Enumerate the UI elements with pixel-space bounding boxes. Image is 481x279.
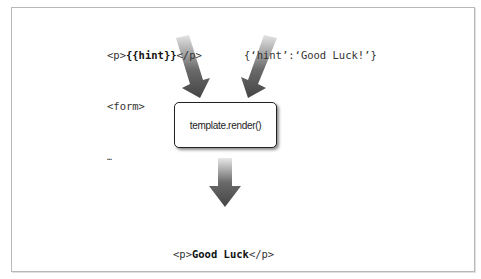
render-process-box: template.render(): [174, 102, 277, 148]
context-dict: {‘hint’:‘Good Luck!’}: [244, 13, 377, 81]
template-line-1: <p>{{hint}}</p>: [107, 47, 202, 64]
arrow-render-to-output-icon: [209, 158, 241, 207]
context-text: {‘hint’:‘Good Luck!’}: [244, 47, 377, 64]
template-line-ellipsis: …: [107, 149, 202, 166]
rendered-output: <p>Good Luck</p> <form> …: [173, 212, 274, 279]
output-line-1: <p>Good Luck</p>: [173, 246, 274, 263]
template-source: <p>{{hint}}</p> <form> …: [107, 13, 202, 183]
render-process-label: template.render(): [190, 120, 262, 131]
